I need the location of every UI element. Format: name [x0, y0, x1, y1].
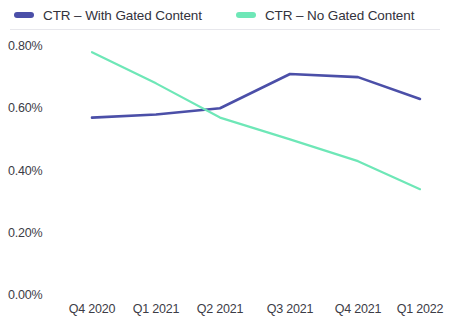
y-axis-tick-label: 0.80%	[8, 39, 60, 53]
y-axis-tick-label: 0.20%	[8, 226, 60, 240]
x-axis-tick-label: Q4 2020	[69, 302, 116, 316]
x-axis-tick-label: Q3 2021	[267, 302, 314, 316]
chart-lines-svg	[0, 0, 450, 330]
plot-area: 0.80%0.60%0.40%0.20%0.00% Q4 2020Q1 2021…	[0, 0, 450, 330]
x-axis-tick-label: Q4 2021	[335, 302, 382, 316]
x-axis-tick-label: Q2 2021	[197, 302, 244, 316]
chart-container: CTR – With Gated Content CTR – No Gated …	[0, 0, 450, 330]
x-axis-tick-label: Q1 2022	[397, 302, 444, 316]
series-line-no-gated-content	[92, 52, 420, 189]
y-axis-tick-label: 0.00%	[8, 288, 60, 302]
y-axis-tick-label: 0.60%	[8, 101, 60, 115]
x-axis-tick-label: Q1 2021	[133, 302, 180, 316]
series-line-with-gated-content	[92, 74, 420, 118]
y-axis-tick-label: 0.40%	[8, 164, 60, 178]
